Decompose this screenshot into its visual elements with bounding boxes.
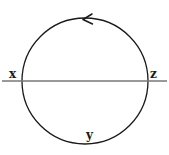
diagram-canvas xyxy=(0,0,169,155)
circle-orientation-figure: x z y xyxy=(0,0,169,155)
counterclockwise-arrow-icon xyxy=(83,14,93,24)
label-z: z xyxy=(150,68,157,80)
label-y: y xyxy=(86,129,93,141)
label-x: x xyxy=(9,68,16,80)
